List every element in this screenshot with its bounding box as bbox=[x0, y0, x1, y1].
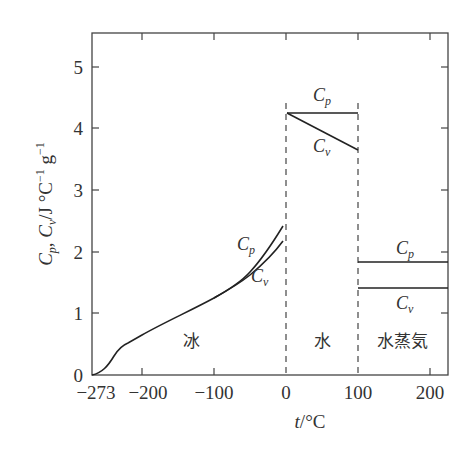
phase-label-water: 水 bbox=[314, 331, 331, 351]
plot-frame bbox=[92, 33, 448, 375]
chart: 0 1 2 3 4 5 −273 −200 −100 0 100 200 t/°… bbox=[0, 0, 467, 449]
ice-cp-label: Cp bbox=[237, 234, 255, 257]
x-tick-0: 0 bbox=[281, 382, 291, 403]
x-tick-neg200: −200 bbox=[128, 382, 167, 403]
y-axis-label: Cp, Cv/J °C−1 g−1 bbox=[33, 142, 59, 266]
phase-label-ice: 冰 bbox=[183, 331, 200, 351]
water-cv-label: Cv bbox=[313, 136, 331, 159]
x-tick-neg273: −273 bbox=[76, 382, 115, 403]
x-tick-neg100: −100 bbox=[194, 382, 233, 403]
y-tick-5: 5 bbox=[74, 57, 84, 78]
y-tick-2: 2 bbox=[74, 242, 84, 263]
x-tick-labels: −273 −200 −100 0 100 200 bbox=[76, 382, 444, 403]
water-cp-label: Cp bbox=[313, 85, 331, 108]
x-tick-100: 100 bbox=[344, 382, 373, 403]
ice-cv-label: Cv bbox=[251, 266, 269, 289]
x-tick-200: 200 bbox=[416, 382, 445, 403]
y-tick-3: 3 bbox=[74, 180, 84, 201]
steam-cp-label: Cp bbox=[396, 238, 414, 261]
y-ticks bbox=[92, 67, 448, 313]
phase-label-steam: 水蒸気 bbox=[377, 331, 428, 351]
steam-cv-label: Cv bbox=[396, 293, 414, 316]
x-axis-label: t/°C bbox=[295, 411, 326, 432]
y-tick-labels: 0 1 2 3 4 5 bbox=[74, 57, 84, 386]
y-tick-4: 4 bbox=[74, 118, 84, 139]
y-tick-1: 1 bbox=[74, 303, 84, 324]
